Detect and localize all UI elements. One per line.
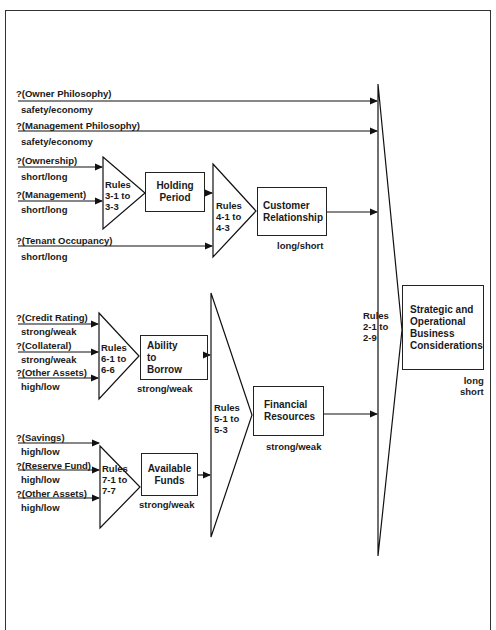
input-other-assets-2-values: high/low — [21, 502, 60, 513]
input-credit-rating: ?(Credit Rating) — [16, 312, 88, 323]
input-reserve-fund-values: high/low — [21, 474, 60, 485]
rules-2-label: Rules2-1 to2-9 — [363, 310, 389, 343]
node-strategic-operational: Strategic andOperationalBusinessConsider… — [402, 285, 484, 370]
input-management-philosophy-values: safety/economy — [21, 136, 93, 147]
node-available-funds: AvailableFunds — [141, 453, 198, 496]
input-reserve-fund: ?(Reserve Fund) — [16, 460, 91, 471]
input-owner-philosophy-values: safety/economy — [21, 104, 93, 115]
input-management-philosophy: ?(Management Philosophy) — [16, 120, 140, 131]
node-ability-to-borrow: AbilitytoBorrow — [140, 335, 208, 380]
customer-relationship-values: long/short — [277, 240, 323, 251]
rules-7-label: Rules7-1 to7-7 — [102, 463, 128, 496]
ability-to-borrow-values: strong/weak — [137, 383, 192, 394]
available-funds-values: strong/weak — [139, 499, 194, 510]
input-credit-rating-values: strong/weak — [21, 326, 76, 337]
strategic-values: longshort — [460, 375, 484, 397]
input-collateral: ?(Collateral) — [16, 340, 71, 351]
input-tenant-occupancy-values: short/long — [21, 251, 67, 262]
node-holding-period: HoldingPeriod — [145, 172, 205, 212]
input-owner-philosophy: ?(Owner Philosophy) — [16, 88, 112, 99]
rules-6-label: Rules6-1 to6-6 — [101, 342, 127, 375]
input-savings-values: high/low — [21, 446, 60, 457]
input-collateral-values: strong/weak — [21, 354, 76, 365]
input-management-values: short/long — [21, 204, 67, 215]
input-ownership: ?(Ownership) — [16, 155, 77, 166]
input-tenant-occupancy: ?(Tenant Occupancy) — [16, 235, 112, 246]
financial-resources-values: strong/weak — [266, 441, 321, 452]
rules-3-label: Rules3-1 to3-3 — [105, 179, 131, 212]
input-savings: ?(Savings) — [16, 432, 65, 443]
node-financial-resources: FinancialResources — [253, 386, 324, 436]
rules-4-label: Rules4-1 to4-3 — [216, 200, 242, 233]
input-other-assets-1: ?(Other Assets) — [16, 367, 87, 378]
rules-5-label: Rules5-1 to5-3 — [214, 402, 240, 435]
input-other-assets-1-values: high/low — [21, 381, 60, 392]
node-customer-relationship: CustomerRelationship — [257, 187, 327, 236]
input-ownership-values: short/long — [21, 171, 67, 182]
input-other-assets-2: ?(Other Assets) — [16, 488, 87, 499]
input-management: ?(Management) — [16, 189, 86, 200]
